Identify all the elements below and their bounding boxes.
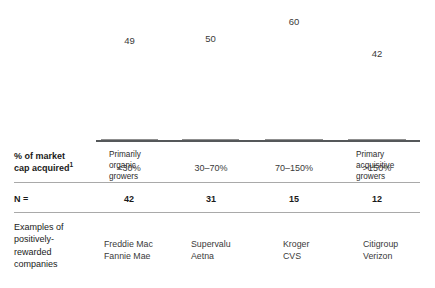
- row-label-n: N =: [14, 193, 28, 205]
- table-separator-1: [14, 182, 420, 183]
- row-label-examples-line4: companies: [14, 258, 64, 270]
- table-cell-n-2: 31: [206, 193, 216, 205]
- table-cell-companies-3: Kroger CVS: [283, 238, 309, 263]
- company-4-line2: Verizon: [363, 250, 398, 262]
- bar-group-4: 42 Primary acquisitive growers: [348, 63, 406, 141]
- company-1-line2: Fannie Mae: [104, 250, 153, 262]
- table-cell-n-3: 15: [289, 193, 299, 205]
- footnote-marker: 1: [70, 161, 74, 168]
- row-label-examples-line3: rewarded: [14, 246, 64, 258]
- row-label-examples-line1: Examples of: [14, 221, 64, 233]
- company-3-line1: Kroger: [283, 238, 309, 250]
- chart-container: 49 Primarily organic growers 50 60 42: [0, 0, 435, 288]
- table-cell-range-1: <30%: [117, 162, 140, 174]
- table-cell-companies-1: Freddie Mac Fannie Mae: [104, 238, 153, 263]
- table-separator-2: [14, 212, 420, 213]
- company-4-line1: Citigroup: [363, 238, 398, 250]
- bar-value-4: 42: [372, 49, 383, 59]
- row-label-examples: Examples of positively- rewarded compani…: [14, 221, 64, 271]
- table-cell-companies-2: Supervalu Aetna: [191, 238, 231, 263]
- row-label-market-cap: % of market cap acquired1: [14, 150, 73, 175]
- bar-chart-plot: 49 Primarily organic growers 50 60 42: [0, 0, 435, 142]
- bar-value-3: 60: [289, 17, 300, 27]
- row-label-examples-line2: positively-: [14, 233, 64, 245]
- table-cell-companies-4: Citigroup Verizon: [363, 238, 398, 263]
- company-2-line1: Supervalu: [191, 238, 231, 250]
- row-label-market-cap-line2: cap acquired1: [14, 162, 73, 174]
- data-table: % of market cap acquired1 <30% 30–70% 70…: [0, 142, 435, 288]
- row-label-n-text: N =: [14, 193, 28, 205]
- table-cell-n-4: 12: [372, 193, 382, 205]
- bar-group-1: 49 Primarily organic growers: [101, 50, 158, 141]
- table-cell-n-1: 42: [124, 193, 134, 205]
- company-3-line2: CVS: [283, 250, 309, 262]
- row-label-market-cap-line2-text: cap acquired: [14, 163, 70, 173]
- bar-group-3: 60: [265, 31, 323, 141]
- company-2-line2: Aetna: [191, 250, 231, 262]
- row-label-market-cap-line1: % of market: [14, 150, 73, 162]
- table-cell-range-3: 70–150%: [275, 162, 313, 174]
- bar-value-2: 50: [205, 34, 216, 44]
- bar-value-1: 49: [124, 36, 135, 46]
- bar-group-2: 50: [182, 48, 239, 141]
- table-cell-range-4: >150%: [363, 162, 391, 174]
- company-1-line1: Freddie Mac: [104, 238, 153, 250]
- table-cell-range-2: 30–70%: [194, 162, 227, 174]
